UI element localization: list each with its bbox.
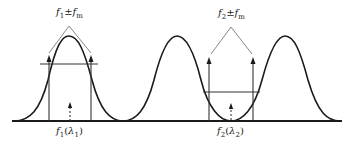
label-f1-lambda1: f1(λ1): [56, 125, 83, 139]
left-bracket: [49, 26, 91, 53]
right-arrow-2-head: [251, 57, 256, 64]
transmission-curve-diagram: [0, 0, 354, 146]
label-f1-pm-fm: f1±fm: [56, 6, 83, 20]
label-f2-lambda2: f2(λ2): [217, 125, 244, 139]
transmission-curve: [14, 36, 340, 121]
right-arrow-1-head: [207, 57, 212, 64]
left-center-arrow-head: [68, 102, 72, 108]
right-center-arrow-head: [229, 103, 233, 109]
label-f2-pm-fm: f2±fm: [218, 7, 245, 21]
left-arrow-2-head: [89, 55, 94, 62]
right-bracket: [211, 27, 252, 54]
left-arrow-1-head: [47, 55, 52, 62]
